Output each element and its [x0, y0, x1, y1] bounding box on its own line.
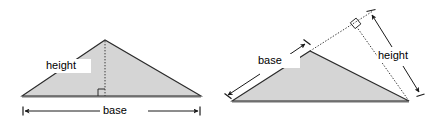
right-base-label: base — [258, 54, 282, 66]
right-height-label: height — [378, 49, 408, 61]
right-diagram: base height — [225, 10, 426, 102]
left-height-label: height — [46, 59, 76, 71]
right-base-tick-start — [225, 94, 232, 99]
right-right-angle-icon — [350, 18, 361, 29]
right-height-tick-end — [417, 94, 425, 97]
geometry-figure: height base base — [0, 0, 438, 123]
figure-canvas: height base base — [0, 0, 438, 123]
right-base-extension-dotted-line — [310, 11, 373, 51]
left-base-label: base — [103, 104, 127, 116]
right-height-dimension-line-upper — [372, 15, 392, 47]
left-diagram: height base — [22, 40, 201, 118]
right-height-dimension-line-lower — [403, 66, 419, 92]
right-height-tick-start — [367, 10, 376, 12]
